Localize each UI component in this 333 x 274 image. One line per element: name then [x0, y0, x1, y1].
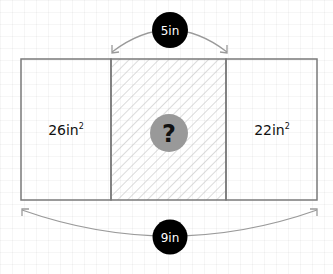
area-diagram: 5in 9in 26in2 22in2 ?	[0, 0, 333, 274]
left-area-exponent: 2	[79, 122, 84, 131]
top-dimension-label: 5in	[161, 24, 180, 38]
top-dimension-badge: 5in	[152, 12, 188, 48]
left-area-label: 26in2	[48, 122, 84, 138]
question-mark-icon: ?	[162, 120, 176, 148]
unknown-area-badge: ?	[150, 114, 188, 152]
bottom-dimension-label: 9in	[161, 231, 180, 245]
bottom-dimension-badge: 9in	[153, 220, 188, 255]
right-area-label: 22in2	[254, 122, 290, 138]
right-area-exponent: 2	[285, 122, 290, 131]
